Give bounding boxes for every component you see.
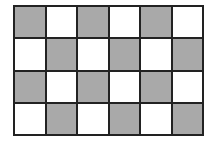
grid-cell-gray: [14, 71, 46, 103]
grid-cell-white: [172, 6, 204, 38]
grid-cell-white: [140, 38, 172, 70]
grid-cell-white: [46, 6, 78, 38]
grid-cell-white: [46, 71, 78, 103]
grid-cell-gray: [77, 6, 109, 38]
checkerboard-grid: [13, 5, 204, 136]
grid-cell-gray: [109, 103, 141, 135]
grid-cell-gray: [140, 71, 172, 103]
grid-cell-gray: [77, 71, 109, 103]
grid-cell-white: [109, 6, 141, 38]
grid-cell-white: [172, 71, 204, 103]
grid-cell-white: [77, 38, 109, 70]
grid-cell-gray: [46, 103, 78, 135]
grid-cell-white: [140, 103, 172, 135]
grid-cell-gray: [172, 103, 204, 135]
grid-cell-gray: [140, 6, 172, 38]
grid-cell-white: [109, 71, 141, 103]
grid-cell-white: [77, 103, 109, 135]
grid-cell-white: [14, 103, 46, 135]
grid-cell-gray: [14, 6, 46, 38]
grid-cell-gray: [46, 38, 78, 70]
grid-cell-white: [14, 38, 46, 70]
grid-cell-gray: [109, 38, 141, 70]
grid-cell-gray: [172, 38, 204, 70]
